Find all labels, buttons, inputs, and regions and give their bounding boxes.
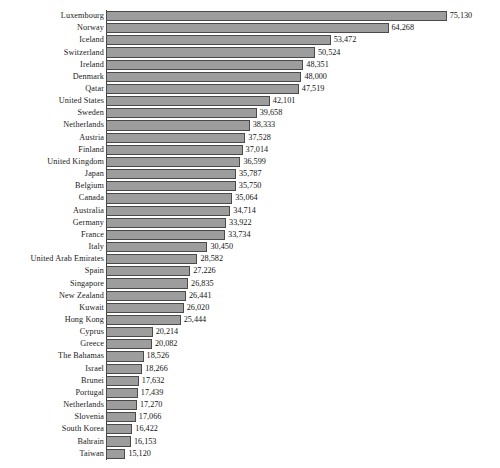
category-label: Switzerland <box>64 48 104 56</box>
bar <box>106 424 132 434</box>
bar-value-label: 25,444 <box>181 316 207 324</box>
bar <box>106 242 207 252</box>
category-label: Israel <box>85 365 104 373</box>
category-label: Netherlands <box>63 121 104 129</box>
category-label: Iceland <box>79 36 104 44</box>
bar-row: Hong Kong25,444 <box>0 314 500 326</box>
bar-value-label: 33,922 <box>226 219 252 227</box>
bar <box>106 169 236 179</box>
bar-track: 48,351 <box>106 59 454 71</box>
bar-value-label: 48,000 <box>301 73 327 81</box>
bar-track: 36,599 <box>106 156 454 168</box>
bar-track: 75,130 <box>106 10 454 22</box>
bar-row: Australia34,714 <box>0 205 500 217</box>
category-label: Sweden <box>77 109 104 117</box>
bar-row: Kuwait26,020 <box>0 302 500 314</box>
category-label: Singapore <box>70 279 104 287</box>
bar <box>106 291 186 301</box>
bar-track: 16,153 <box>106 435 454 447</box>
bar-value-label: 75,130 <box>447 12 473 20</box>
bar-value-label: 17,066 <box>136 413 162 421</box>
bar-track: 18,526 <box>106 350 454 362</box>
bar <box>106 278 188 288</box>
category-label: Slovenia <box>75 413 104 421</box>
bar-row: Iceland53,472 <box>0 34 500 46</box>
category-label: Ireland <box>80 61 104 69</box>
bar-track: 17,270 <box>106 399 454 411</box>
category-label: Spain <box>85 267 104 275</box>
bar <box>106 230 225 240</box>
category-label: France <box>81 231 104 239</box>
bar <box>106 218 226 228</box>
bar-track: 33,922 <box>106 217 454 229</box>
bar <box>106 145 243 155</box>
bar-track: 30,450 <box>106 241 454 253</box>
bar <box>106 303 184 313</box>
bar-value-label: 20,082 <box>152 340 178 348</box>
bar-value-label: 64,268 <box>389 24 415 32</box>
bar-row: Sweden39,658 <box>0 107 500 119</box>
bar <box>106 436 131 446</box>
bar-value-label: 30,450 <box>207 243 233 251</box>
bar <box>106 96 270 106</box>
bar-row: Portugal17,439 <box>0 387 500 399</box>
category-label: United Arab Emirates <box>31 255 104 263</box>
category-label: Japan <box>85 170 104 178</box>
bar-track: 64,268 <box>106 22 454 34</box>
bar <box>106 254 197 264</box>
bar-row: New Zealand26,441 <box>0 290 500 302</box>
bar-value-label: 35,787 <box>236 170 262 178</box>
bar-row: United Arab Emirates28,582 <box>0 253 500 265</box>
bar-track: 37,014 <box>106 144 454 156</box>
bar-value-label: 16,422 <box>132 425 158 433</box>
bar-track: 39,658 <box>106 107 454 119</box>
bar-value-label: 27,226 <box>190 267 216 275</box>
bar-track: 53,472 <box>106 34 454 46</box>
bar-value-label: 42,101 <box>270 97 296 105</box>
bar <box>106 376 139 386</box>
bar-row: Spain27,226 <box>0 265 500 277</box>
category-label: United States <box>59 97 104 105</box>
bar-row: Canada35,064 <box>0 192 500 204</box>
bar-track: 28,582 <box>106 253 454 265</box>
bar-track: 42,101 <box>106 95 454 107</box>
bar <box>106 351 144 361</box>
bar-track: 15,120 <box>106 448 454 460</box>
bar-row: South Korea16,422 <box>0 423 500 435</box>
bar <box>106 412 136 422</box>
bar-track: 35,787 <box>106 168 454 180</box>
bar-value-label: 48,351 <box>303 61 329 69</box>
bar <box>106 23 389 33</box>
bar-value-label: 50,524 <box>315 48 341 56</box>
category-label: Canada <box>79 194 104 202</box>
bar-value-label: 39,658 <box>257 109 283 117</box>
bar-value-label: 47,519 <box>299 85 325 93</box>
bar-row: Bahrain16,153 <box>0 435 500 447</box>
bar <box>106 327 153 337</box>
bar-value-label: 17,632 <box>139 377 165 385</box>
bar <box>106 120 250 130</box>
bar <box>106 193 232 203</box>
bar-value-label: 35,750 <box>236 182 262 190</box>
category-label: The Bahamas <box>58 352 104 360</box>
bar-track: 26,441 <box>106 290 454 302</box>
category-label: Greece <box>80 340 104 348</box>
bar <box>106 108 257 118</box>
category-label: Finland <box>78 146 104 154</box>
bar-track: 26,835 <box>106 277 454 289</box>
bar-track: 17,632 <box>106 375 454 387</box>
bar-track: 17,066 <box>106 411 454 423</box>
bar-track: 35,750 <box>106 180 454 192</box>
bar <box>106 364 142 374</box>
category-label: Bahrain <box>77 437 104 445</box>
bar <box>106 11 447 21</box>
bar-row: Denmark48,000 <box>0 71 500 83</box>
bar-row: Switzerland50,524 <box>0 46 500 58</box>
bar-row: Slovenia17,066 <box>0 411 500 423</box>
bar <box>106 206 230 216</box>
bar-value-label: 16,153 <box>131 437 157 445</box>
category-label: Hong Kong <box>65 316 104 324</box>
bar-row: Brunei17,632 <box>0 375 500 387</box>
category-label: Portugal <box>75 389 104 397</box>
bar-row: Luxembourg75,130 <box>0 10 500 22</box>
